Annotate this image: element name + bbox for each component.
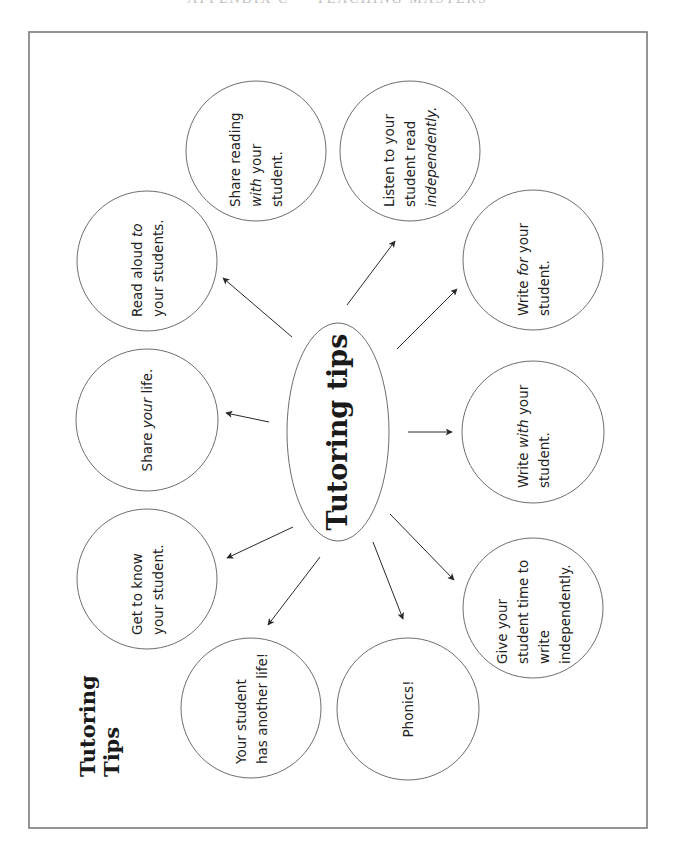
tip-text-line: with (515, 419, 531, 448)
tip-text-line: to (129, 224, 145, 238)
tip-text: Share your life. (139, 369, 155, 472)
tip-bubble-write-for: Write for yourstudent. (463, 190, 603, 330)
tip-text-line: your student. (150, 544, 166, 635)
hub-node: Tutoring tips (287, 323, 389, 541)
tip-text-line: your (515, 222, 531, 257)
tip-text-line: Your student (233, 679, 249, 765)
bubble-circle (77, 191, 217, 331)
title-line-2: Tips (99, 727, 124, 777)
bubble-circle (462, 361, 604, 503)
tip-bubble-share-reading: Share readingwith yourstudent. (186, 81, 326, 221)
tip-text: Phonics! (400, 680, 416, 737)
arrow-to-get-to-know (227, 527, 293, 558)
arrow-to-another-life (268, 557, 320, 625)
tip-text-line: independently. (557, 565, 573, 664)
tip-text: Listen to yourstudent readindependently. (381, 107, 439, 207)
tip-bubble-listen: Listen to yourstudent readindependently. (340, 81, 480, 221)
tip-bubble-get-to-know: Get to knowyour student. (77, 509, 217, 649)
tip-text-line: your (515, 384, 531, 419)
tip-text-line: Share reading (227, 112, 243, 207)
arrow-to-share-life (226, 413, 269, 422)
diagram-title: Tutoring Tips (75, 675, 124, 777)
tip-bubble-phonics: Phonics! (337, 638, 479, 780)
tip-text-line: student time to (515, 560, 531, 664)
tip-text-line: Write (515, 276, 531, 316)
tip-text-line: student read (402, 121, 418, 207)
tip-bubble-write-with: Write with yourstudent. (462, 361, 604, 503)
hub-label: Tutoring tips (322, 334, 353, 531)
tip-text-line: Listen to your (381, 114, 397, 207)
tip-text-line: student. (536, 432, 552, 488)
tip-text-line: your students. (150, 219, 166, 317)
tip-text-line: Read aloud (129, 237, 145, 317)
arrow-to-give-time (390, 514, 454, 580)
tip-text-line: your (139, 396, 155, 429)
tip-text-line: student. (269, 151, 285, 207)
tip-text-line: Write (515, 448, 531, 488)
bubble-circle (77, 509, 217, 649)
title-line-1: Tutoring (75, 675, 100, 777)
bubble-circle (181, 638, 321, 778)
bubble-circle (463, 190, 603, 330)
tip-text-line: Give your (494, 598, 510, 664)
arrow-to-read-aloud (223, 278, 292, 337)
tutoring-tips-diagram: Tutoring Tips Tutoring tips Read aloud t… (0, 0, 675, 854)
tip-text-line: student. (536, 260, 552, 316)
tip-text-line: life. (139, 369, 155, 398)
tip-bubble-share-life: Share your life. (76, 349, 218, 491)
tip-text-line: with (248, 178, 264, 207)
tip-bubble-read-aloud: Read aloud toyour students. (77, 191, 217, 331)
tip-bubble-give-time: Give yourstudent time towriteindependent… (463, 538, 603, 678)
tip-bubble-another-life: Your studenthas another life! (181, 638, 321, 778)
arrow-to-write-for (397, 289, 457, 349)
tip-text-line: has another life! (254, 653, 270, 764)
tip-text-line: Get to know (129, 553, 145, 635)
arrow-to-listen (347, 241, 395, 305)
tip-text-line: independently. (423, 107, 439, 207)
arrow-to-phonics (373, 542, 403, 619)
tip-text-line: your (248, 143, 264, 178)
tip-text-line: Phonics! (400, 680, 416, 737)
tip-text-line: Share (139, 428, 155, 471)
tip-text-line: write (536, 630, 552, 664)
tip-text-line: for (515, 256, 531, 276)
bubble-circle (463, 538, 603, 678)
